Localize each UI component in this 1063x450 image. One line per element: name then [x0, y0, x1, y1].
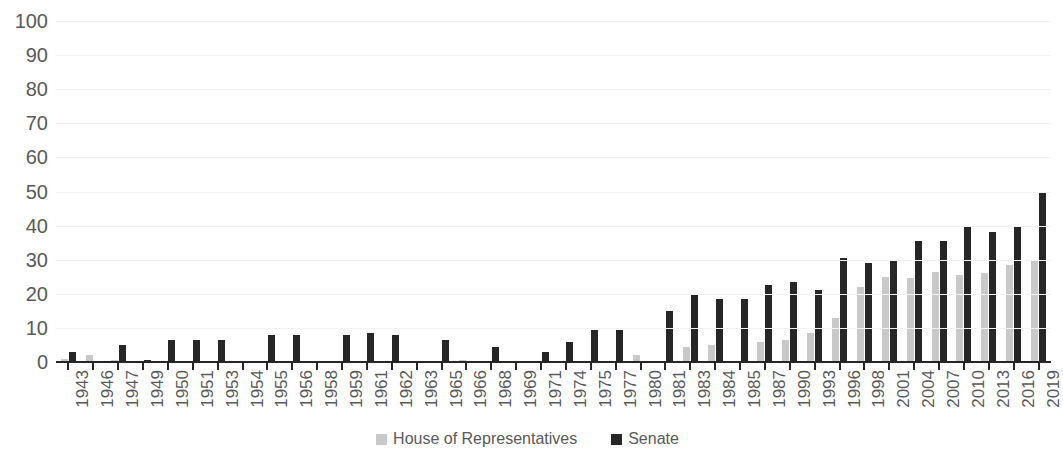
x-tick-label: 1974	[572, 370, 589, 408]
x-tickmark	[640, 363, 642, 370]
x-tick-label: 1981	[671, 370, 688, 408]
x-tick-label: 1949	[149, 370, 166, 408]
x-tick-label: 1946	[99, 370, 116, 408]
gridline	[56, 328, 1051, 329]
bar-senate	[666, 311, 673, 362]
x-tickmark	[615, 363, 617, 370]
legend-label-house: House of Representatives	[393, 431, 577, 447]
x-tickmark	[217, 363, 219, 370]
gridline	[56, 55, 1051, 56]
bar-house-of-representatives	[1031, 260, 1038, 362]
x-tick-label: 1969	[522, 370, 539, 408]
x-tick-label: 1984	[721, 370, 738, 408]
bar-house-of-representatives	[857, 287, 864, 362]
bar-senate	[119, 345, 126, 362]
x-tickmark	[515, 363, 517, 370]
x-tick-label: 2019	[1045, 370, 1062, 408]
x-tick-label: 1958	[323, 370, 340, 408]
x-tick-label: 1955	[273, 370, 290, 408]
chart-legend: House of Representatives Senate	[0, 428, 1055, 450]
y-tick-label: 10	[4, 318, 48, 338]
x-tickmark	[689, 363, 691, 370]
x-tickmark	[192, 363, 194, 370]
bar-house-of-representatives	[956, 275, 963, 362]
y-axis: 0102030405060708090100	[0, 0, 48, 372]
x-tick-label: 1959	[348, 370, 365, 408]
legend-label-senate: Senate	[628, 431, 679, 447]
bar-house-of-representatives	[1006, 265, 1013, 362]
legend-item-house: House of Representatives	[376, 431, 577, 447]
gridline	[56, 123, 1051, 124]
bar-senate	[168, 340, 175, 362]
bar-senate	[492, 347, 499, 362]
x-tickmark	[988, 363, 990, 370]
x-tick-label: 1950	[174, 370, 191, 408]
y-tick-label: 80	[4, 79, 48, 99]
x-tickmark	[142, 363, 144, 370]
x-tickmark	[938, 363, 940, 370]
x-axis-tickmarks	[56, 363, 1051, 370]
x-tick-label: 1980	[647, 370, 664, 408]
x-tick-label: 2013	[995, 370, 1012, 408]
x-tickmark	[242, 363, 244, 370]
x-tick-label: 1961	[373, 370, 390, 408]
bar-senate	[716, 299, 723, 362]
y-tick-label: 0	[4, 352, 48, 372]
y-tick-label: 40	[4, 216, 48, 236]
x-tick-label: 2004	[920, 370, 937, 408]
x-tickmark	[913, 363, 915, 370]
x-tickmark	[863, 363, 865, 370]
x-tickmark	[739, 363, 741, 370]
house-legend-swatch	[376, 434, 387, 445]
bar-senate	[442, 340, 449, 362]
x-tickmark	[416, 363, 418, 370]
bar-senate	[616, 330, 623, 362]
bar-senate	[268, 335, 275, 362]
x-tick-label: 1943	[74, 370, 91, 408]
x-tick-label: 1951	[199, 370, 216, 408]
bar-senate	[591, 330, 598, 362]
x-tickmark	[316, 363, 318, 370]
x-tickmark	[789, 363, 791, 370]
y-tick-label: 30	[4, 250, 48, 270]
bar-senate	[765, 285, 772, 362]
x-tickmark	[664, 363, 666, 370]
bar-senate	[1039, 193, 1046, 362]
x-tickmark	[814, 363, 816, 370]
x-tickmark	[590, 363, 592, 370]
y-tick-label: 20	[4, 284, 48, 304]
x-tickmark	[117, 363, 119, 370]
bar-house-of-representatives	[981, 273, 988, 362]
x-tick-label: 1954	[249, 370, 266, 408]
x-tick-label: 1975	[597, 370, 614, 408]
bar-house-of-representatives	[683, 347, 690, 362]
x-tickmark	[67, 363, 69, 370]
x-tickmark	[839, 363, 841, 370]
x-tick-label: 1968	[497, 370, 514, 408]
x-tickmark	[291, 363, 293, 370]
y-tick-label: 50	[4, 182, 48, 202]
bar-senate	[989, 232, 996, 362]
x-tickmark	[888, 363, 890, 370]
bar-senate	[566, 342, 573, 362]
x-tick-label: 1947	[124, 370, 141, 408]
x-tickmark	[441, 363, 443, 370]
y-tick-label: 100	[4, 11, 48, 31]
gridline	[56, 260, 1051, 261]
x-tickmark	[490, 363, 492, 370]
gridline	[56, 157, 1051, 158]
x-tick-label: 1985	[746, 370, 763, 408]
y-tick-label: 60	[4, 147, 48, 167]
x-tick-label: 1977	[622, 370, 639, 408]
x-tick-label: 2007	[945, 370, 962, 408]
bar-house-of-representatives	[932, 272, 939, 362]
bar-senate	[815, 290, 822, 362]
bar-senate	[293, 335, 300, 362]
x-tickmark	[266, 363, 268, 370]
x-tickmark	[366, 363, 368, 370]
x-tick-label: 1963	[423, 370, 440, 408]
x-tick-label: 1971	[547, 370, 564, 408]
bar-senate	[343, 335, 350, 362]
x-tickmark	[1038, 363, 1040, 370]
